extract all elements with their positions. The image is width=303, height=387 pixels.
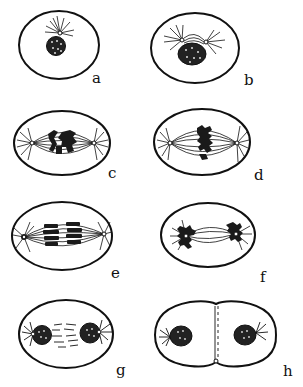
stage-d-cell: d	[150, 110, 303, 200]
stage-label-e: e	[111, 266, 120, 281]
stage-label-f: f	[260, 270, 266, 285]
stage-label-g: g	[116, 363, 126, 378]
telophase-cell-drawing	[0, 290, 150, 387]
anaphase-cell-drawing	[0, 200, 150, 290]
stage-a-cell: a	[0, 0, 150, 100]
prophase-cell-drawing	[0, 0, 150, 100]
prometaphase-cell-drawing	[0, 110, 150, 200]
late-anaphase-cell-drawing	[150, 200, 303, 290]
stage-c-cell: c	[0, 110, 150, 200]
stage-label-a: a	[92, 71, 101, 86]
stage-label-c: c	[108, 166, 116, 181]
stage-label-h: h	[283, 364, 293, 379]
metaphase-cell-drawing	[150, 110, 303, 200]
stage-e-cell: e	[0, 200, 150, 290]
stage-h-cell: h	[150, 290, 303, 387]
stage-b-cell: b	[150, 0, 303, 100]
cytokinesis-cell-drawing	[150, 290, 303, 387]
stage-f-cell: f	[150, 200, 303, 290]
stage-label-b: b	[244, 73, 254, 88]
prophase-late-cell-drawing	[150, 0, 303, 100]
stage-label-d: d	[254, 168, 264, 183]
stage-g-cell: g	[0, 290, 150, 387]
